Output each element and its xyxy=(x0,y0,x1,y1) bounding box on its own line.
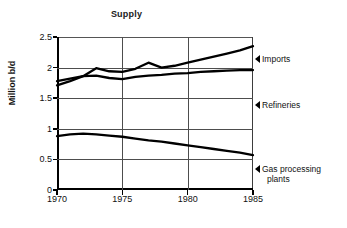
left-triangle-icon xyxy=(255,165,260,173)
callout-gas-processing-plants: Gas processing plants xyxy=(255,164,321,184)
series-line xyxy=(57,134,253,155)
series-line xyxy=(57,46,253,85)
callout-gas-line2: plants xyxy=(262,174,321,184)
callout-refineries-label: Refineries xyxy=(262,100,300,110)
y-tick-label: 1 xyxy=(47,124,52,134)
x-tick-label: 1985 xyxy=(243,194,263,204)
y-tick-label: 0.5 xyxy=(39,154,52,164)
y-axis-title: Million b/d xyxy=(7,38,17,128)
plot-area: 00.511.522.5 1970197519801985 xyxy=(57,37,253,190)
left-triangle-icon xyxy=(255,55,260,63)
page-title: Supply xyxy=(0,9,253,19)
left-triangle-icon xyxy=(255,101,260,109)
x-tick-label: 1970 xyxy=(47,194,67,204)
series-lines xyxy=(57,37,253,190)
y-tick-label: 2.5 xyxy=(39,32,52,42)
callout-gas-label: Gas processing plants xyxy=(262,164,321,184)
x-tick-label: 1980 xyxy=(178,194,198,204)
callout-imports: Imports xyxy=(255,54,290,64)
y-tick-label: 1.5 xyxy=(39,93,52,103)
y-tick-label: 2 xyxy=(47,63,52,73)
series-line xyxy=(57,70,253,81)
x-tick-label: 1975 xyxy=(112,194,132,204)
callout-gas-line1: Gas processing xyxy=(262,164,321,174)
callout-imports-label: Imports xyxy=(262,54,290,64)
callout-refineries: Refineries xyxy=(255,100,300,110)
chart-screenshot: Supply Million b/d 00.511.522.5 19701975… xyxy=(0,0,347,228)
